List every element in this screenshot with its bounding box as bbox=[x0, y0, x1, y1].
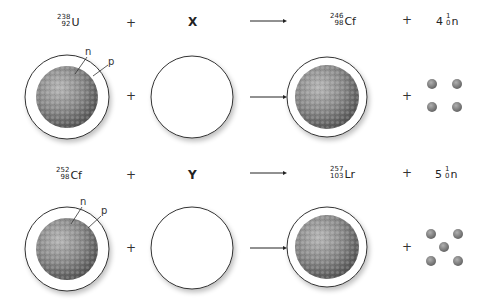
reactant2-circle-row1 bbox=[151, 56, 233, 138]
plus-sign: + bbox=[402, 89, 412, 103]
neutron-label: n bbox=[85, 46, 91, 57]
arrow-equation-row2 bbox=[250, 171, 287, 175]
proton-label: p bbox=[108, 56, 114, 67]
atomic-number: 0 bbox=[445, 173, 449, 180]
proton-label: p bbox=[101, 205, 107, 216]
product-isotope-row2: 257 103 Lr bbox=[330, 166, 355, 180]
plus-sign: + bbox=[126, 241, 136, 255]
neutron-coefficient: 5 bbox=[435, 169, 442, 180]
atomic-number: 103 bbox=[330, 173, 343, 180]
element-symbol: Cf bbox=[344, 16, 356, 27]
arrow-row1 bbox=[250, 95, 287, 99]
element-symbol: U bbox=[71, 17, 79, 28]
reactant1-atom-row1 bbox=[25, 55, 109, 139]
reactant2-circle-row2 bbox=[151, 207, 233, 289]
neutrons-row2 bbox=[426, 229, 463, 266]
plus-sign: + bbox=[126, 168, 136, 182]
product-atom-row2 bbox=[287, 207, 367, 287]
reactant1-isotope-row2: 252 98 Cf bbox=[56, 167, 82, 181]
plus-sign: + bbox=[402, 240, 412, 254]
neutron-label: n bbox=[80, 196, 86, 207]
unknown-reactant-y: Y bbox=[188, 168, 197, 182]
neutron-term-row1: 4 1 0 n bbox=[436, 13, 458, 27]
product-isotope-row1: 246 98 Cf bbox=[330, 13, 356, 27]
element-symbol: Cf bbox=[70, 170, 82, 181]
neutron-coefficient: 4 bbox=[436, 16, 443, 27]
neutron-term-row2: 5 1 0 n bbox=[435, 166, 457, 180]
neutron-symbol: n bbox=[450, 169, 457, 180]
reactant1-isotope-row1: 238 92 U bbox=[57, 14, 79, 28]
plus-sign: + bbox=[402, 166, 412, 180]
plus-sign: + bbox=[126, 16, 136, 30]
atomic-number: 98 bbox=[334, 20, 343, 27]
atomic-number: 92 bbox=[61, 21, 70, 28]
unknown-reactant-x: X bbox=[188, 15, 197, 29]
plus-sign: + bbox=[126, 89, 136, 103]
diagram-graphics bbox=[0, 0, 484, 308]
product-atom-row1 bbox=[287, 57, 367, 137]
arrow-row2 bbox=[250, 246, 287, 250]
element-symbol: Lr bbox=[344, 169, 355, 180]
atomic-number: 0 bbox=[446, 20, 450, 27]
reactant1-atom-row2 bbox=[25, 207, 109, 291]
plus-sign: + bbox=[402, 13, 412, 27]
arrow-equation-row1 bbox=[250, 19, 287, 23]
atomic-number: 98 bbox=[60, 174, 69, 181]
neutron-symbol: n bbox=[451, 16, 458, 27]
neutrons-row1 bbox=[427, 79, 462, 112]
